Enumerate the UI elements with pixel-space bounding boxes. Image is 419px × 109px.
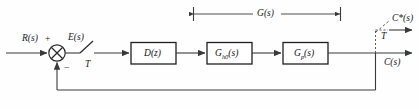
plus-sign-label: + <box>45 35 50 45</box>
controller-block-label-arg: (z) <box>151 48 161 58</box>
span-annotation-label-arg: (s) <box>264 8 274 18</box>
output-signal-label: C(s) <box>384 58 400 68</box>
hold-block-label: Gh0(s) <box>215 48 238 60</box>
summing-junction <box>49 45 65 61</box>
minus-sign-label: − <box>64 63 70 73</box>
input-signal-label: R(s) <box>22 34 38 44</box>
sampled-output-signal-label: C*(s) <box>392 14 413 24</box>
span-annotation-label: G(s) <box>257 9 274 19</box>
hold-block-label-arg: (s) <box>228 48 238 58</box>
controller-block-label-main: D <box>144 48 151 58</box>
output-sampler-period-label: T <box>381 32 386 42</box>
error-signal-label: E(s) <box>68 33 84 43</box>
input-sampler-switch <box>80 41 93 53</box>
input-sampler-period-label: T <box>85 60 90 70</box>
controller-block-label: D(z) <box>144 48 161 58</box>
plant-block-label-main: G <box>294 48 301 58</box>
span-annotation-label-main: G <box>257 8 264 18</box>
control-system-block-diagram: R(s) + − E(s) T D(z) Gh0(s) Gp(s) G(s) C… <box>0 0 419 109</box>
plant-block-label: Gp(s) <box>294 48 314 60</box>
hold-block-label-main: G <box>215 48 222 58</box>
diagram-canvas <box>0 0 419 109</box>
plant-block-label-arg: (s) <box>304 48 314 58</box>
